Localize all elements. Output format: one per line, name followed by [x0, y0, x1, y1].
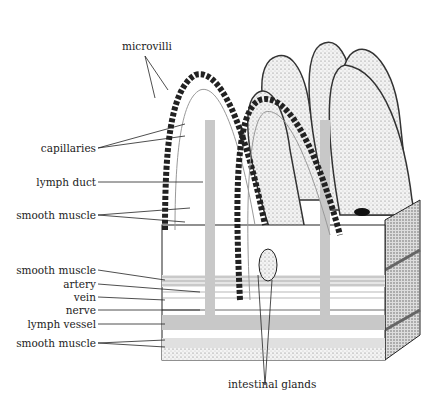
- gland-opening: [354, 208, 370, 216]
- lymph-vessel-band: [162, 315, 385, 330]
- label-artery: artery: [10, 278, 96, 290]
- label-lymph-duct: lymph duct: [20, 176, 96, 188]
- block-side-face: [385, 200, 420, 360]
- label-smooth-muscle-lower: smooth muscle: [10, 337, 96, 349]
- label-intestinal-glands: intestinal glands: [228, 378, 316, 390]
- label-nerve: nerve: [10, 304, 96, 316]
- label-smooth-muscle-villus: smooth muscle: [10, 209, 96, 221]
- label-lymph-vessel: lymph vessel: [10, 318, 96, 330]
- label-microvilli: microvilli: [122, 40, 172, 52]
- label-vein: vein: [10, 291, 96, 303]
- label-smooth-muscle-upper: smooth muscle: [10, 264, 96, 276]
- label-capillaries: capillaries: [20, 142, 96, 154]
- intestinal-gland: [259, 249, 277, 281]
